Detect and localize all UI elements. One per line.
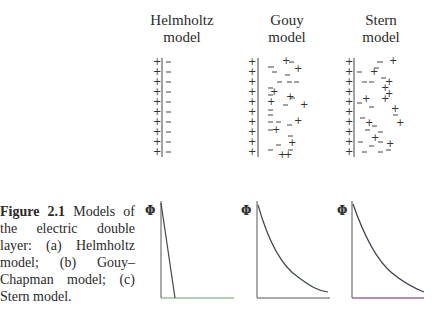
figure-caption-text: Models of the electric double layer: (a)… [0, 204, 135, 304]
gouy-phi-label: Φ [241, 204, 251, 218]
figure-label: Figure 2.1 [0, 204, 65, 219]
stern-potential-curve [353, 204, 424, 292]
figure-caption: Figure 2.1 Models of the electric double… [0, 203, 135, 305]
helmholtz-phi-label: Φ [145, 204, 155, 218]
helmholtz-potential-curve [161, 203, 175, 298]
stern-potential-plot [352, 201, 424, 298]
stern-phi-label: Φ [337, 204, 347, 218]
gouy-potential-curve [258, 205, 328, 292]
helmholtz-potential-plot [161, 201, 234, 298]
gouy-potential-plot [257, 201, 330, 298]
